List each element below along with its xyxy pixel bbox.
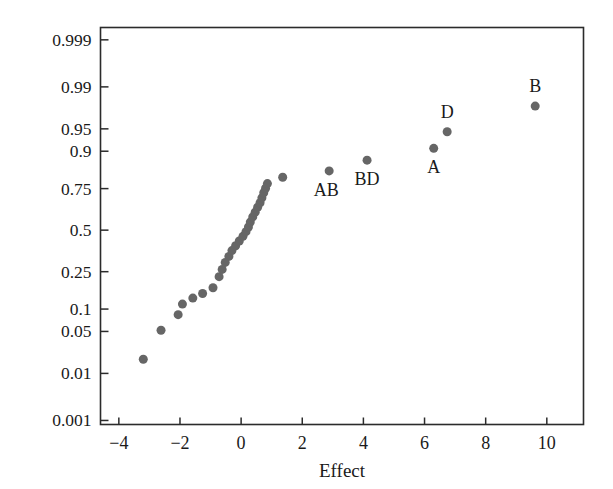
y-tick-label: 0.05	[61, 321, 92, 342]
data-point	[278, 173, 287, 182]
x-tick-label: 2	[298, 433, 307, 454]
y-tick-label: 0.75	[61, 178, 92, 199]
x-tick-label: 10	[538, 433, 556, 454]
data-point	[208, 283, 217, 292]
data-point	[157, 326, 166, 335]
x-tick-label: −4	[109, 433, 128, 454]
y-tick-label: 0.25	[61, 261, 92, 282]
point-annotation: B	[529, 76, 541, 97]
data-point	[188, 294, 197, 303]
data-point	[178, 300, 187, 309]
y-tick-label: 0.9	[70, 141, 92, 162]
x-tick-label: 0	[237, 433, 246, 454]
y-tick-label: 0.999	[52, 29, 91, 50]
x-tick-label: 8	[481, 433, 490, 454]
y-tick-label: 0.99	[61, 76, 92, 97]
data-point	[325, 166, 334, 175]
point-annotation: BD	[355, 169, 380, 190]
data-point	[531, 102, 540, 111]
data-point	[263, 179, 272, 188]
point-annotation: A	[427, 157, 440, 178]
normal-probability-plot: −4−202468100.9990.990.950.90.750.50.250.…	[0, 0, 613, 489]
data-point	[443, 127, 452, 136]
y-tick-label: 0.5	[70, 220, 92, 241]
data-point	[139, 355, 148, 364]
data-point	[174, 310, 183, 319]
data-point	[363, 156, 372, 165]
y-tick-label: 0.95	[61, 118, 92, 139]
plot-frame	[101, 28, 584, 425]
point-annotation: D	[441, 102, 454, 123]
x-tick-label: 6	[420, 433, 429, 454]
x-tick-label: 4	[359, 433, 368, 454]
y-tick-label: 0.001	[52, 410, 91, 431]
x-tick-label: −2	[170, 433, 189, 454]
data-point	[429, 144, 438, 153]
x-axis-label: Effect	[319, 460, 365, 482]
point-annotation: AB	[314, 180, 339, 201]
plot-canvas	[0, 0, 613, 489]
y-tick-label: 0.01	[61, 363, 92, 384]
data-point	[198, 289, 207, 298]
y-tick-label: 0.1	[70, 299, 92, 320]
